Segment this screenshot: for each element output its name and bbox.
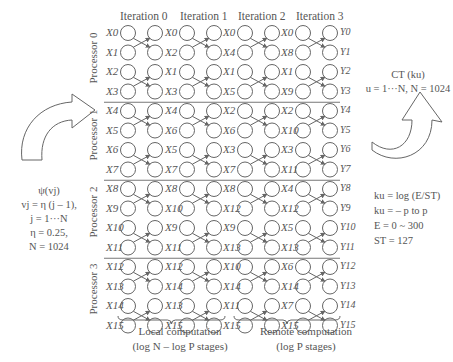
node-label: X12 (106, 260, 124, 272)
node-label: X9 (281, 85, 293, 97)
node-label: X1 (165, 65, 177, 77)
output-label: Y5 (340, 124, 351, 135)
input-flow-arrow-icon (22, 94, 95, 160)
node-label: X1 (223, 65, 235, 77)
output-label: Y12 (340, 260, 356, 271)
processor-1-label: Processor 1 (87, 95, 99, 175)
node-label: X5 (281, 221, 293, 233)
node-label: X11 (165, 241, 182, 253)
output-flow-arrow-icon (372, 92, 442, 158)
iteration-2-header: Iteration 2 (238, 10, 286, 22)
e-range: E = 0 ~ 300 (374, 218, 440, 233)
node-label: X0 (223, 26, 235, 38)
iteration-1-header: Iteration 1 (180, 10, 228, 22)
n-value: N = 1024 (0, 240, 98, 254)
u-range: u = 1···N, N = 1024 (360, 82, 453, 96)
processor-0-label: Processor 0 (87, 18, 99, 98)
node-label: X12 (223, 202, 241, 214)
node-label: X6 (223, 124, 235, 136)
processor-3-label: Processor 3 (87, 249, 99, 329)
psi-function: ψ(vj) (0, 184, 98, 198)
node-label: X14 (281, 280, 299, 292)
node-label: X1 (281, 65, 293, 77)
node-label: X7 (106, 163, 118, 175)
node-label: X9 (223, 221, 235, 233)
node-label: X3 (281, 143, 293, 155)
node-label: X11 (281, 163, 298, 175)
st-value: ST = 127 (374, 233, 440, 248)
parameters-note: ku = log (E/ST) ku = – p to p E = 0 ~ 30… (374, 188, 440, 248)
output-label: Y14 (340, 299, 356, 310)
butterfly-diagram: Iteration 0 Iteration 1 Iteration 2 Iter… (0, 0, 453, 362)
vj-definition: vj = η (j – 1), (0, 198, 98, 212)
input-function-note: ψ(vj) vj = η (j – 1), j = 1···N η = 0.25… (0, 184, 98, 254)
node-label: X9 (106, 202, 118, 214)
node-label: X12 (165, 260, 183, 272)
node-label: X8 (165, 182, 177, 194)
output-label: Y1 (340, 46, 351, 57)
node-label: X3 (106, 85, 118, 97)
eta-value: η = 0.25, (0, 226, 98, 240)
node-label: X4 (106, 104, 118, 116)
node-label: X3 (223, 143, 235, 155)
node-label: X10 (281, 124, 299, 136)
node-label: X2 (106, 65, 118, 77)
node-label: X8 (281, 46, 293, 58)
node-label: X14 (165, 280, 183, 292)
ku-formula: ku = log (E/ST) (374, 188, 440, 203)
node-label: X8 (223, 182, 235, 194)
node-label: X0 (165, 26, 177, 38)
output-label: Y0 (340, 26, 351, 37)
node-label: X4 (165, 104, 177, 116)
output-label: Y7 (340, 163, 351, 174)
node-label: X14 (106, 299, 124, 311)
iteration-3-header: Iteration 3 (296, 10, 344, 22)
node-label: X11 (223, 299, 240, 311)
node-label: X13 (165, 299, 183, 311)
output-label: Y8 (340, 182, 351, 193)
node-label: X4 (223, 46, 235, 58)
node-label: X6 (165, 124, 177, 136)
local-caption-stages: (log N – log P stages) (120, 339, 240, 354)
node-label: X5 (165, 143, 177, 155)
local-computation-caption: Local computation (log N – log P stages) (120, 324, 240, 354)
node-label: X9 (165, 221, 177, 233)
node-label: X6 (281, 260, 293, 272)
j-range: j = 1···N (0, 212, 98, 226)
node-label: X6 (106, 143, 118, 155)
node-label: X2 (223, 104, 235, 116)
node-label: X7 (281, 299, 293, 311)
node-label: X12 (281, 202, 299, 214)
output-label: Y3 (340, 85, 351, 96)
node-label: X0 (106, 26, 118, 38)
node-label: X13 (223, 241, 241, 253)
node-label: X10 (106, 221, 124, 233)
node-label: X2 (281, 104, 293, 116)
node-label: X1 (106, 46, 118, 58)
node-label: X4 (281, 182, 293, 194)
node-label: X2 (165, 46, 177, 58)
node-label: X11 (106, 241, 123, 253)
output-label: Y9 (340, 202, 351, 213)
node-label: X8 (106, 182, 118, 194)
node-label: X10 (165, 202, 183, 214)
node-label: X5 (223, 85, 235, 97)
node-label: X10 (223, 260, 241, 272)
node-label: X13 (106, 280, 124, 292)
iteration-0-header: Iteration 0 (120, 10, 168, 22)
node-label: X5 (106, 124, 118, 136)
node-label: X7 (223, 163, 235, 175)
output-label: Y6 (340, 143, 351, 154)
ku-range: ku = – p to p (374, 203, 440, 218)
remote-caption-stages: (log P stages) (246, 339, 366, 354)
node-label: X14 (223, 280, 241, 292)
output-label: Y4 (340, 104, 351, 115)
output-label: Y13 (340, 280, 356, 291)
node-label: X3 (165, 85, 177, 97)
local-caption-title: Local computation (120, 324, 240, 339)
remote-computation-caption: Remote computation (log P stages) (246, 324, 366, 354)
node-label: X13 (281, 241, 299, 253)
remote-caption-title: Remote computation (246, 324, 366, 339)
output-function-note: CT (ku) u = 1···N, N = 1024 (360, 68, 453, 96)
node-label: X0 (281, 26, 293, 38)
